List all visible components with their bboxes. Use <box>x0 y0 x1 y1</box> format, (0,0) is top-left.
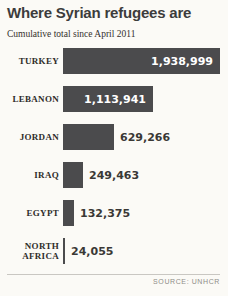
chart-subtitle: Cumulative total since April 2011 <box>7 29 220 39</box>
bar-row: NORTH AFRICA24,055 <box>7 232 220 270</box>
infographic: Where Syrian refugees are Cumulative tot… <box>0 0 228 296</box>
bar <box>63 162 83 188</box>
bar-area: 629,266 <box>63 124 220 150</box>
bar-area: 132,375 <box>63 200 220 226</box>
value-label: 1,113,941 <box>84 93 153 106</box>
country-label: JORDAN <box>7 132 59 142</box>
bar-row: IRAQ249,463 <box>7 156 220 194</box>
bar-chart: TURKEY1,938,999LEBANON1,113,941JORDAN629… <box>7 42 220 270</box>
page-title: Where Syrian refugees are <box>7 4 220 22</box>
bar: 1,113,941 <box>63 86 153 112</box>
country-label: TURKEY <box>7 56 59 66</box>
country-label: IRAQ <box>7 170 59 180</box>
value-label: 249,463 <box>89 169 139 182</box>
country-label: NORTH AFRICA <box>7 241 59 262</box>
value-label: 132,375 <box>80 207 130 220</box>
bar-row: JORDAN629,266 <box>7 118 220 156</box>
bar-row: LEBANON1,113,941 <box>7 80 220 118</box>
bar-area: 24,055 <box>63 238 220 264</box>
bar-area: 1,938,999 <box>63 48 220 74</box>
bar <box>63 200 74 226</box>
value-label: 629,266 <box>120 131 170 144</box>
bar-row: TURKEY1,938,999 <box>7 42 220 80</box>
bar-area: 249,463 <box>63 162 220 188</box>
footer-divider <box>7 274 220 275</box>
bar <box>63 124 114 150</box>
bar-area: 1,113,941 <box>63 86 220 112</box>
value-label: 24,055 <box>71 245 113 258</box>
country-label: EGYPT <box>7 208 59 218</box>
value-label: 1,938,999 <box>151 55 220 68</box>
bar <box>63 238 65 264</box>
bar: 1,938,999 <box>63 48 220 74</box>
country-label: LEBANON <box>7 94 59 104</box>
source-credit: SOURCE: UNHCR <box>7 278 220 285</box>
bar-row: EGYPT132,375 <box>7 194 220 232</box>
